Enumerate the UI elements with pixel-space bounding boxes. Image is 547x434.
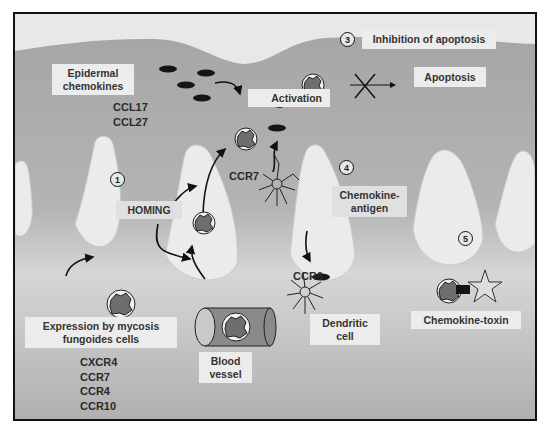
cell-expression: [107, 290, 135, 318]
step-5-badge: 5: [458, 231, 473, 246]
chemokine-antigen-line-1: Chemokine-: [339, 189, 399, 202]
tag-ccr6: CCR6: [293, 269, 323, 284]
expression-line-2: fungoides cells: [63, 333, 139, 346]
epidermal-line-2: chemokines: [63, 80, 124, 93]
step-4-badge: 4: [339, 160, 354, 175]
cell-in-vessel: [222, 313, 250, 341]
receptor-ccr4: CCR4: [80, 384, 117, 399]
dendritic-line-2: cell: [336, 330, 354, 343]
label-chemokine-toxin: Chemokine-toxin: [411, 311, 521, 329]
toxin-connector: [456, 285, 470, 294]
expression-line-1: Expression by mycosis: [43, 320, 160, 333]
step-3-badge: 3: [340, 32, 355, 47]
blood-line-1: Blood: [211, 355, 241, 368]
label-homing: HOMING: [116, 201, 182, 219]
receptor-ccr10: CCR10: [80, 399, 117, 414]
step-1-badge: 1: [110, 172, 125, 187]
receptor-ccr7: CCR7: [80, 370, 117, 385]
label-expression: Expression by mycosis fungoides cells: [25, 317, 177, 348]
diagram-frame: 1 2 3 4 5 Epidermal chemokines CCL17 CCL…: [13, 12, 537, 421]
chemokine-ccl17: CCL17: [113, 100, 148, 115]
receptor-cxcr4: CXCR4: [80, 355, 117, 370]
label-epidermal-chemokines: Epidermal chemokines: [52, 64, 134, 95]
label-chemokine-antigen: Chemokine- antigen: [332, 186, 407, 217]
cell-homing: [193, 212, 215, 234]
label-inhibition-of-apoptosis: Inhibition of apoptosis: [362, 30, 496, 49]
receptor-list: CXCR4 CCR7 CCR4 CCR10: [80, 355, 117, 413]
label-blood-vessel: Blood vessel: [199, 352, 252, 383]
cell-activated: [235, 128, 257, 150]
label-dendritic-cell: Dendritic cell: [310, 314, 380, 345]
chemokine-ccl27: CCL27: [113, 115, 148, 130]
label-activation: Activation: [248, 89, 330, 107]
blood-line-2: vessel: [209, 368, 241, 381]
dendritic-line-1: Dendritic: [322, 317, 368, 330]
label-apoptosis: Apoptosis: [414, 67, 486, 87]
epidermal-line-1: Epidermal: [68, 67, 119, 80]
epidermal-chemokine-list: CCL17 CCL27: [113, 100, 148, 129]
tag-ccr7: CCR7: [229, 169, 259, 184]
chemokine-antigen-line-2: antigen: [351, 202, 388, 215]
